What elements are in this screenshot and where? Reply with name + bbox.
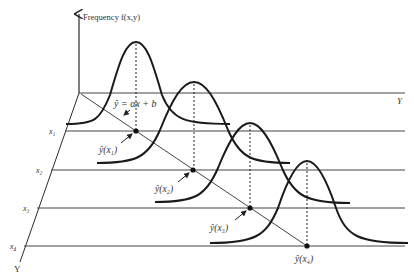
depth-x-axis xyxy=(20,93,79,262)
point-arrow-x2 xyxy=(178,173,189,182)
distribution-curve-x1 xyxy=(66,42,230,124)
regression-equation: ŷ = αx + b xyxy=(113,98,157,109)
mean-point-x3 xyxy=(247,205,252,210)
depth-axis-label: Y xyxy=(14,264,21,274)
x3-label: x₃ xyxy=(22,204,30,213)
point-arrow-x3 xyxy=(235,211,246,220)
mean-point-x2 xyxy=(190,167,195,172)
mean-point-x1 xyxy=(133,128,138,133)
x1-label: x₁ xyxy=(48,127,56,136)
back-y-axis-label: Y xyxy=(397,96,403,106)
distribution-curve-x4 xyxy=(210,161,408,243)
point-label-x3: ŷ(x₃) xyxy=(209,223,228,234)
point-label-x1: ŷ(x₁) xyxy=(98,145,117,156)
point-arrow-x1 xyxy=(121,134,132,143)
point-label-x4: ŷ(x₄) xyxy=(294,254,313,265)
regression-pointer-arrow xyxy=(124,110,130,115)
regression-distribution-diagram: Frequency f(x,y) Y Y x₁ x₂ x₃ x₄ ŷ = αx … xyxy=(0,0,414,279)
frequency-axis-label: Frequency f(x,y) xyxy=(83,12,140,22)
x2-label: x₂ xyxy=(35,166,43,175)
point-label-x2: ŷ(x₂) xyxy=(154,184,173,195)
mean-point-x4 xyxy=(304,243,309,248)
x4-label: x₄ xyxy=(9,242,17,251)
